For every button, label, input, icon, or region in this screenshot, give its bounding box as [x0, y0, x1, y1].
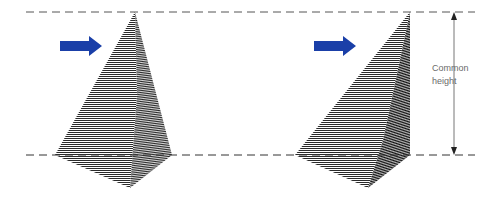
pyramid-comparison-diagram — [0, 0, 500, 200]
left-pyramid — [55, 12, 172, 188]
common-height-label: Common height — [432, 62, 469, 88]
common-height-label-line1: Common — [432, 62, 469, 75]
common-height-label-line2: height — [432, 75, 469, 88]
arrow-right-icon — [314, 36, 356, 56]
arrow-right-icon — [60, 36, 102, 56]
right-pyramid — [295, 12, 410, 188]
